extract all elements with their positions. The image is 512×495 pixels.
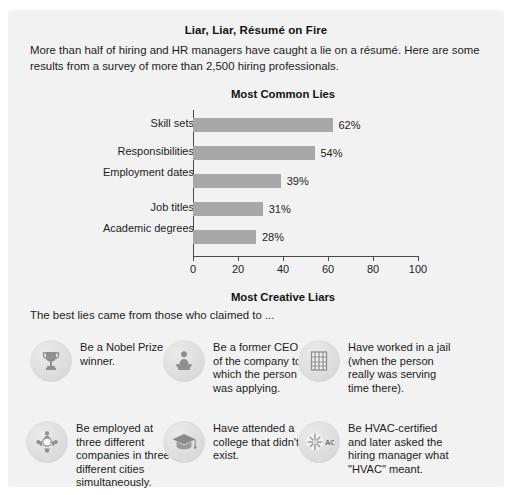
chart-title: Most Common Lies [118, 88, 448, 100]
chart-bar-value: 39% [287, 175, 309, 187]
chart-bar-value: 54% [321, 147, 343, 159]
creative-liar-item: Be a former CEO of the company to which … [163, 340, 305, 395]
creative-liar-text: Have worked in a jail (when the person r… [348, 340, 458, 395]
creative-liars-subtitle: The best lies came from those who claime… [30, 309, 274, 321]
chart-x-tick-label: 100 [398, 263, 438, 275]
chart-x-tick-label: 40 [263, 263, 303, 275]
chart-bar-value: 31% [269, 203, 291, 215]
chart-bar-value: 28% [262, 231, 284, 243]
chart-x-tick-label: 20 [218, 263, 258, 275]
chart-x-axis [193, 256, 418, 257]
intro-paragraph: More than half of hiring and HR managers… [30, 43, 488, 74]
creative-liar-item: ACBe HVAC-certified and later asked the … [298, 421, 456, 476]
chart-bar [193, 174, 281, 188]
jail-window-icon [298, 340, 340, 382]
infographic-card: Liar, Liar, Résumé on Fire More than hal… [8, 10, 504, 487]
air-conditioner-icon: AC [298, 421, 340, 463]
chart-x-tick [328, 256, 329, 261]
creative-liar-item: Be employed at three different companies… [26, 421, 176, 490]
chart-bar [193, 146, 315, 160]
creative-liar-item: Be a Nobel Prize winner. [30, 340, 166, 382]
creative-liar-text: Be employed at three different companies… [76, 421, 176, 490]
infographic-page: Liar, Liar, Résumé on Fire More than hal… [0, 0, 512, 495]
podium-speaker-icon [163, 340, 205, 382]
creative-liar-text: Have attended a college that didn't exis… [213, 421, 301, 463]
chart-x-tick-label: 60 [308, 263, 348, 275]
chart-x-tick-label: 80 [353, 263, 393, 275]
chart-category-label: Job titles [34, 201, 194, 214]
chart-bar [193, 202, 263, 216]
svg-text:AC: AC [325, 438, 334, 447]
creative-liar-item: Have attended a college that didn't exis… [163, 421, 301, 463]
creative-liars-title: Most Creative Liars [118, 291, 448, 303]
chart-bar [193, 230, 256, 244]
chart-category-label: Responsibilities [34, 145, 194, 158]
chart-x-tick-label: 0 [173, 263, 213, 275]
chart-category-label: Skill sets [34, 117, 194, 130]
chart-x-tick [238, 256, 239, 261]
chart-x-tick [193, 256, 194, 261]
graduation-cap-icon [163, 421, 205, 463]
multi-worker-icon [26, 421, 68, 463]
chart-x-tick [418, 256, 419, 261]
creative-liar-item: Have worked in a jail (when the person r… [298, 340, 458, 395]
chart-bar-value: 62% [339, 119, 361, 131]
chart-x-tick [373, 256, 374, 261]
chart-x-tick [283, 256, 284, 261]
creative-liar-text: Be a Nobel Prize winner. [80, 340, 166, 368]
creative-liar-text: Be a former CEO of the company to which … [213, 340, 305, 395]
chart-category-label: Employment dates [34, 166, 194, 179]
creative-liar-text: Be HVAC-certified and later asked the hi… [348, 421, 456, 476]
chart-category-label: Academic degrees [34, 222, 194, 235]
bar-chart: Skill sets62%Responsibilities54%Employme… [8, 106, 504, 278]
page-title: Liar, Liar, Résumé on Fire [8, 24, 504, 36]
chart-bar [193, 118, 333, 132]
trophy-icon [30, 340, 72, 382]
